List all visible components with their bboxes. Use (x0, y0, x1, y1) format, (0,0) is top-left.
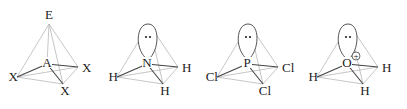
substituent-label: H (182, 60, 191, 75)
lone-pair-electron (145, 36, 147, 38)
central-atom-label: A (42, 55, 52, 70)
substituent-label: Cl (259, 83, 272, 98)
substituent-label: H (160, 83, 169, 98)
molecular-geometry-figure: EAXXXNHHHPClClClOHHH+ (0, 0, 407, 109)
tetrahedron-edge (63, 67, 78, 84)
substituent-label: H (360, 83, 369, 98)
substituent-label: X (82, 60, 92, 75)
tetrahedron-edge (217, 77, 263, 84)
molecule-phosphorus-trichloride: PClClCl (206, 24, 295, 98)
central-atom-label: P (243, 55, 250, 70)
substituent-label: Cl (282, 60, 295, 75)
charge-sign: + (353, 51, 358, 61)
substituent-label: X (60, 83, 70, 98)
lone-pair-electron (249, 36, 251, 38)
lone-pair-electron (245, 36, 247, 38)
substituent-label: Cl (206, 69, 219, 84)
substituent-label: H (382, 60, 391, 75)
tetrahedron-edge (317, 77, 363, 84)
substituent-label: H (109, 69, 118, 84)
tetrahedron-edge (117, 77, 163, 84)
substituent-label: X (9, 69, 19, 84)
lone-pair-electron (345, 36, 347, 38)
tetrahedron-edge (17, 77, 63, 84)
tetrahedron-edge (49, 24, 78, 67)
apex-label: E (45, 7, 53, 22)
lone-pair-electron (149, 36, 151, 38)
central-atom-label: N (142, 55, 152, 70)
tetrahedron-edge (263, 67, 278, 84)
molecule-ammonia: NHHH (109, 24, 192, 98)
lone-pair-electron (349, 36, 351, 38)
molecule-generic: EAXXX (9, 7, 92, 98)
central-atom-label: O (342, 55, 351, 70)
molecule-hydronium: OHHH+ (309, 24, 392, 98)
substituent-label: H (309, 69, 318, 84)
tetrahedron-edge (363, 67, 378, 84)
tetrahedron-edge (163, 67, 178, 84)
